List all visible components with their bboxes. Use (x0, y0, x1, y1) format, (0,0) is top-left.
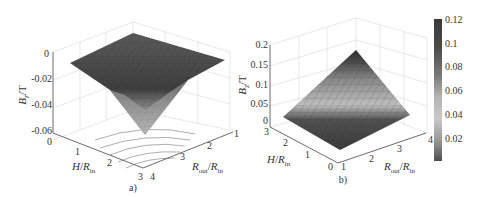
a-ylabel: H/Rin (71, 160, 96, 175)
a-ytick-3: 3 (138, 171, 143, 182)
b-ytick-0: 0 (328, 161, 333, 172)
colorbar: 0.12 0.1 0.08 0.06 0.04 0.02 (434, 14, 463, 161)
figure: 0 -0.02 -0.04 -0.06 Br/T 0 1 2 3 H/Rin 1… (0, 0, 478, 197)
panel-b-surface (283, 50, 410, 150)
a-xtick-3: 4 (150, 171, 155, 182)
b-xtick-0: 1 (341, 161, 346, 172)
cbar-tick-5: 0.02 (445, 133, 463, 144)
b-xtick-1: 2 (369, 153, 374, 164)
a-caption: a) (129, 182, 137, 194)
svg-text:Bz/T: Bz/T (236, 75, 251, 95)
a-ytick-0: 0 (47, 136, 52, 147)
a-xlabel: Rout/Rin (191, 160, 223, 175)
colorbar-gradient (434, 19, 442, 161)
cbar-tick-4: 0.04 (445, 109, 463, 120)
cbar-tick-3: 0.06 (445, 85, 463, 96)
panel-a-surface (70, 33, 225, 135)
a-ztick-1: -0.02 (31, 73, 52, 84)
a-xtick-1: 2 (207, 140, 212, 151)
b-ytick-2: 2 (283, 137, 288, 148)
a-ytick-2: 2 (107, 157, 112, 168)
b-ztick-3: 0.15 (251, 59, 269, 70)
a-ztick-0: 0 (44, 48, 49, 59)
b-zlabel: Bz/T (236, 75, 251, 95)
panel-b: 0.2 0.15 0.1 0.05 0 Bz/T 3 2 1 0 H/Rin 1… (236, 18, 433, 186)
cbar-tick-2: 0.08 (445, 61, 463, 72)
a-ztick-2: -0.04 (31, 99, 52, 110)
b-xtick-2: 3 (397, 143, 402, 154)
b-ztick-2: 0.1 (256, 79, 269, 90)
b-ztick-4: 0.2 (256, 39, 269, 50)
a-ztick-3: -0.06 (31, 125, 52, 136)
b-caption: b) (339, 174, 347, 186)
b-ytick-1: 1 (305, 149, 310, 160)
b-xtick-3: 4 (428, 134, 433, 145)
panel-a: 0 -0.02 -0.04 -0.06 Br/T 0 1 2 3 H/Rin 1… (16, 22, 239, 194)
a-ytick-1: 1 (75, 146, 80, 157)
cbar-tick-0: 0.12 (445, 14, 463, 25)
b-ztick-1: 0.05 (251, 98, 269, 109)
b-ztick-0: 0 (263, 115, 268, 126)
a-xtick-2: 3 (180, 151, 185, 162)
a-xtick-0: 1 (234, 128, 239, 139)
svg-text:Br/T: Br/T (16, 85, 31, 105)
cbar-tick-1: 0.1 (445, 38, 458, 49)
b-xlabel: Rout/Rin (383, 160, 415, 175)
b-ylabel: H/Rin (266, 153, 291, 168)
b-ytick-3: 3 (264, 126, 269, 137)
a-zlabel: Br/T (16, 85, 31, 105)
